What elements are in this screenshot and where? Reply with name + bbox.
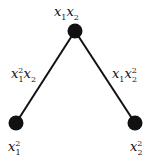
node-label-right: x22 <box>130 140 143 153</box>
node-left <box>9 116 24 131</box>
edge-label-left: x21x2 <box>11 67 36 80</box>
node-label-left: x21 <box>8 140 21 153</box>
node-label-top: x1x2 <box>54 5 79 18</box>
edge-label-right: x1x22 <box>112 67 137 80</box>
diagram-canvas: x1x2 x21x2 x1x22 x21 x22 <box>0 0 155 165</box>
node-top <box>68 24 83 39</box>
node-right <box>128 116 143 131</box>
